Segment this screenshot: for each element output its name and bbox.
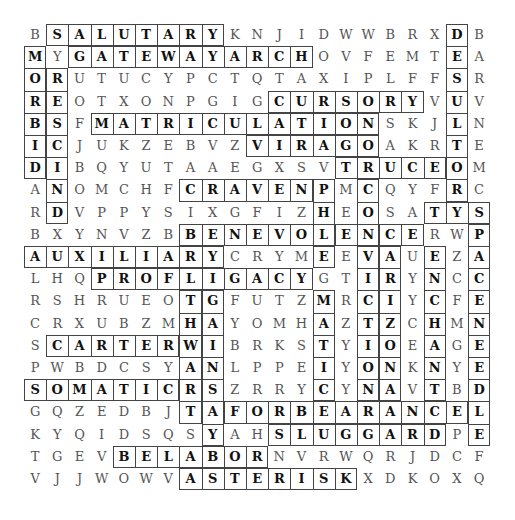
grid-cell[interactable]: O: [290, 224, 312, 246]
grid-cell[interactable]: C: [113, 357, 135, 379]
grid-cell[interactable]: N: [157, 91, 179, 113]
grid-cell[interactable]: P: [179, 68, 201, 90]
grid-cell[interactable]: F: [468, 446, 490, 468]
grid-cell[interactable]: M: [268, 313, 290, 335]
grid-cell[interactable]: Q: [68, 268, 90, 290]
grid-cell[interactable]: Y: [202, 24, 224, 46]
grid-cell[interactable]: N: [268, 446, 290, 468]
grid-cell[interactable]: V: [290, 446, 312, 468]
grid-cell[interactable]: G: [24, 401, 46, 423]
grid-cell[interactable]: O: [46, 379, 68, 401]
grid-cell[interactable]: B: [113, 313, 135, 335]
grid-cell[interactable]: I: [202, 268, 224, 290]
grid-cell[interactable]: U: [46, 246, 68, 268]
grid-cell[interactable]: E: [468, 290, 490, 312]
grid-cell[interactable]: A: [268, 113, 290, 135]
grid-cell[interactable]: E: [446, 46, 468, 68]
grid-cell[interactable]: A: [91, 46, 113, 68]
grid-cell[interactable]: I: [46, 157, 68, 179]
grid-cell[interactable]: K: [268, 335, 290, 357]
grid-cell[interactable]: D: [46, 202, 68, 224]
grid-cell[interactable]: R: [401, 24, 423, 46]
grid-cell[interactable]: S: [135, 424, 157, 446]
grid-cell[interactable]: T: [224, 468, 246, 490]
grid-cell[interactable]: C: [379, 224, 401, 246]
grid-cell[interactable]: L: [91, 24, 113, 46]
grid-cell[interactable]: J: [424, 113, 446, 135]
grid-cell[interactable]: X: [113, 91, 135, 113]
grid-cell[interactable]: A: [68, 335, 90, 357]
grid-cell[interactable]: S: [335, 91, 357, 113]
grid-cell[interactable]: W: [46, 357, 68, 379]
grid-cell[interactable]: I: [268, 202, 290, 224]
grid-cell[interactable]: E: [424, 246, 446, 268]
grid-cell[interactable]: S: [290, 335, 312, 357]
grid-cell[interactable]: N: [357, 113, 379, 135]
grid-cell[interactable]: W: [357, 24, 379, 46]
grid-cell[interactable]: B: [468, 24, 490, 46]
grid-cell[interactable]: V: [335, 46, 357, 68]
grid-cell[interactable]: R: [113, 268, 135, 290]
grid-cell[interactable]: R: [24, 91, 46, 113]
grid-cell[interactable]: T: [424, 379, 446, 401]
grid-cell[interactable]: A: [313, 135, 335, 157]
grid-cell[interactable]: J: [401, 446, 423, 468]
grid-cell[interactable]: H: [68, 290, 90, 312]
grid-cell[interactable]: L: [246, 113, 268, 135]
grid-cell[interactable]: B: [224, 335, 246, 357]
grid-cell[interactable]: R: [179, 246, 201, 268]
grid-cell[interactable]: N: [246, 24, 268, 46]
grid-cell[interactable]: V: [268, 224, 290, 246]
grid-cell[interactable]: V: [91, 446, 113, 468]
grid-cell[interactable]: E: [313, 246, 335, 268]
grid-cell[interactable]: B: [379, 24, 401, 46]
grid-cell[interactable]: E: [335, 224, 357, 246]
grid-cell[interactable]: D: [24, 157, 46, 179]
grid-cell[interactable]: B: [179, 224, 201, 246]
grid-cell[interactable]: C: [313, 379, 335, 401]
grid-cell[interactable]: U: [446, 91, 468, 113]
grid-cell[interactable]: N: [91, 224, 113, 246]
grid-cell[interactable]: F: [157, 268, 179, 290]
grid-cell[interactable]: R: [179, 379, 201, 401]
grid-cell[interactable]: R: [91, 290, 113, 312]
grid-cell[interactable]: T: [24, 446, 46, 468]
grid-cell[interactable]: T: [313, 335, 335, 357]
grid-cell[interactable]: J: [68, 135, 90, 157]
grid-cell[interactable]: C: [357, 179, 379, 201]
grid-cell[interactable]: A: [424, 335, 446, 357]
grid-cell[interactable]: C: [468, 179, 490, 201]
grid-cell[interactable]: M: [401, 46, 423, 68]
grid-cell[interactable]: X: [357, 468, 379, 490]
grid-cell[interactable]: C: [24, 313, 46, 335]
grid-cell[interactable]: R: [46, 68, 68, 90]
grid-cell[interactable]: O: [135, 268, 157, 290]
grid-cell[interactable]: T: [113, 379, 135, 401]
grid-cell[interactable]: O: [357, 135, 379, 157]
grid-cell[interactable]: C: [268, 91, 290, 113]
grid-cell[interactable]: A: [224, 424, 246, 446]
grid-cell[interactable]: J: [157, 401, 179, 423]
grid-cell[interactable]: V: [246, 179, 268, 201]
grid-cell[interactable]: F: [224, 290, 246, 312]
grid-cell[interactable]: T: [424, 46, 446, 68]
grid-cell[interactable]: K: [401, 357, 423, 379]
grid-cell[interactable]: E: [157, 135, 179, 157]
grid-cell[interactable]: G: [224, 202, 246, 224]
grid-cell[interactable]: U: [113, 24, 135, 46]
grid-cell[interactable]: G: [224, 268, 246, 290]
grid-cell[interactable]: D: [91, 357, 113, 379]
grid-cell[interactable]: I: [357, 335, 379, 357]
grid-cell[interactable]: Q: [157, 424, 179, 446]
grid-cell[interactable]: K: [401, 135, 423, 157]
grid-cell[interactable]: C: [424, 290, 446, 312]
grid-cell[interactable]: C: [202, 68, 224, 90]
grid-cell[interactable]: U: [91, 135, 113, 157]
grid-cell[interactable]: Q: [91, 157, 113, 179]
grid-cell[interactable]: U: [246, 290, 268, 312]
grid-cell[interactable]: O: [424, 468, 446, 490]
grid-cell[interactable]: U: [379, 157, 401, 179]
grid-cell[interactable]: U: [313, 424, 335, 446]
grid-cell[interactable]: N: [424, 268, 446, 290]
grid-cell[interactable]: U: [113, 68, 135, 90]
